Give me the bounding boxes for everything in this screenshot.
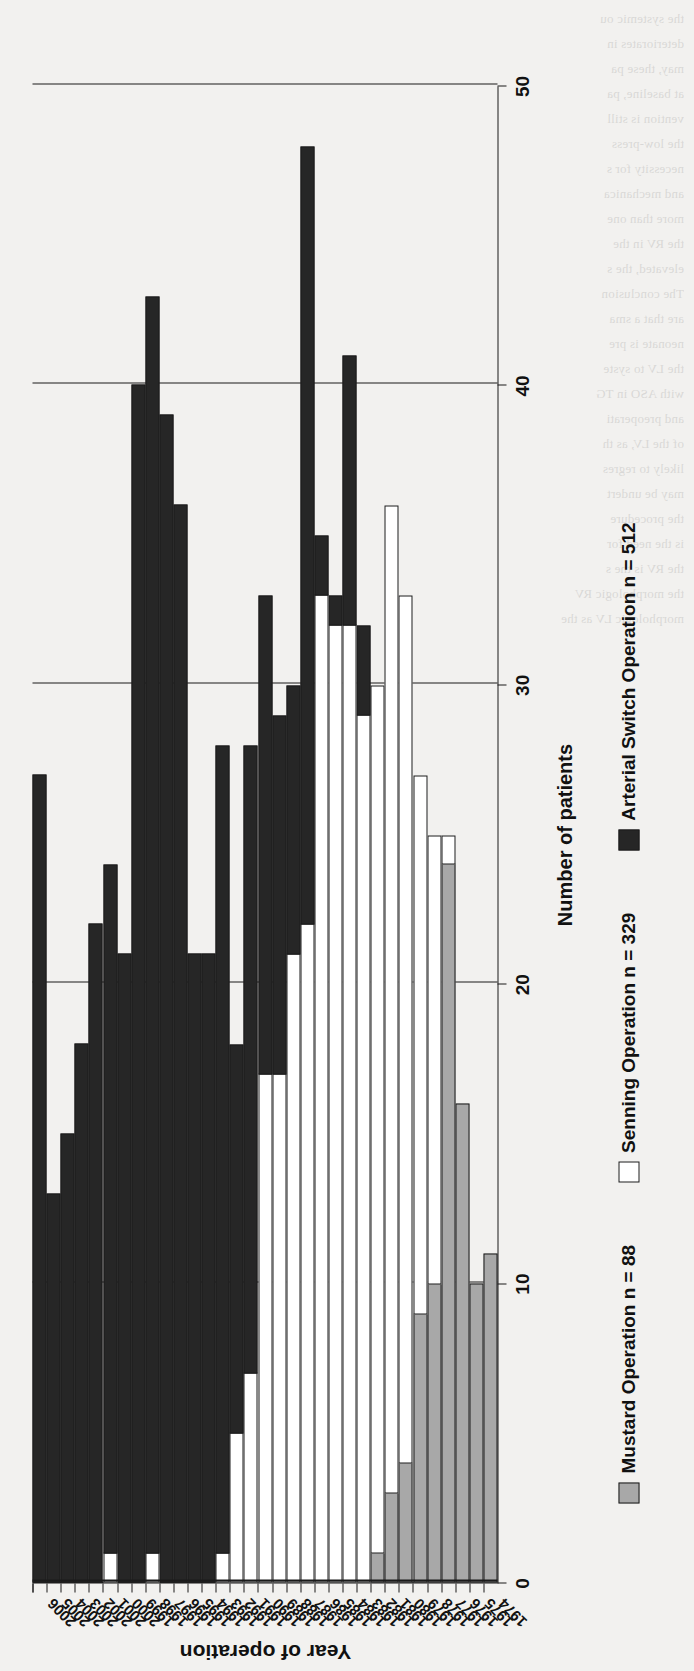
category-tick-1998 xyxy=(145,1583,146,1592)
bar-segment-senning-1979 xyxy=(413,775,427,1314)
bar-1995 xyxy=(187,953,201,1581)
category-tick-1990 xyxy=(257,1583,258,1592)
category-tick-1992 xyxy=(229,1583,230,1592)
value-tick-label-30: 30 xyxy=(511,665,533,705)
category-tick-2001 xyxy=(102,1583,103,1592)
bar-segment-senning-1990 xyxy=(258,1073,272,1582)
bar-1990 xyxy=(258,595,272,1581)
bar-1980 xyxy=(398,595,412,1581)
bar-segment-senning-1982 xyxy=(370,685,384,1553)
bar-1999 xyxy=(131,384,145,1581)
bar-2000 xyxy=(117,953,131,1581)
category-tick-1975 xyxy=(469,1583,470,1592)
bar-segment-senning-1988 xyxy=(286,953,300,1582)
category-tick-2004 xyxy=(60,1583,61,1592)
legend-item-aso: Arterial Switch Operation n = 512 xyxy=(617,522,639,850)
bar-segment-senning-1992 xyxy=(229,1432,243,1582)
legend-swatch-mustard xyxy=(618,1482,639,1503)
bar-segment-aso-1994 xyxy=(201,953,215,1582)
bar-segment-aso-1992 xyxy=(229,1044,243,1433)
legend-label-mustard: Mustard Operation n = 88 xyxy=(617,1244,639,1473)
legend-swatch-senning xyxy=(618,1161,639,1182)
category-tick-1986 xyxy=(314,1583,315,1592)
chart-figure: 01020304050 1974197519761977197819791980… xyxy=(0,0,694,1671)
bar-2004 xyxy=(60,1133,74,1581)
bar-segment-mustard-1976 xyxy=(455,1103,469,1582)
category-tick-1989 xyxy=(272,1583,273,1592)
bar-segment-mustard-1981 xyxy=(384,1492,398,1582)
value-tick-label-50: 50 xyxy=(511,66,533,106)
bar-1975 xyxy=(469,1283,483,1581)
legend-item-senning: Senning Operation n = 329 xyxy=(617,912,639,1182)
bar-segment-senning-1983 xyxy=(356,714,370,1582)
bar-segment-aso-2004 xyxy=(60,1133,74,1582)
value-tick-10 xyxy=(497,1283,506,1284)
bar-1998 xyxy=(145,296,159,1581)
y-axis-title: Number of patients xyxy=(553,743,576,925)
category-tick-1974 xyxy=(483,1583,484,1592)
bar-1992 xyxy=(229,1044,243,1581)
gridline xyxy=(32,83,497,84)
bar-1991 xyxy=(243,745,257,1581)
legend-item-mustard: Mustard Operation n = 88 xyxy=(617,1244,639,1503)
bar-segment-senning-1980 xyxy=(398,595,412,1463)
bar-1976 xyxy=(455,1103,469,1581)
category-tick-1991 xyxy=(243,1583,244,1592)
bar-1979 xyxy=(413,775,427,1581)
category-tick-1993 xyxy=(215,1583,216,1592)
bar-segment-aso-2001 xyxy=(103,864,117,1553)
bar-1974 xyxy=(483,1253,497,1581)
bar-2006 xyxy=(32,774,46,1581)
bar-segment-aso-1984 xyxy=(342,355,356,624)
bar-1987 xyxy=(300,146,314,1581)
bar-segment-aso-2005 xyxy=(46,1193,60,1582)
value-tick-label-0: 0 xyxy=(511,1563,533,1603)
category-tick-1987 xyxy=(300,1583,301,1592)
bar-2003 xyxy=(74,1043,88,1581)
bar-segment-senning-1981 xyxy=(384,505,398,1493)
value-tick-20 xyxy=(497,983,506,984)
value-tick-label-10: 10 xyxy=(511,1264,533,1304)
category-tick-1976 xyxy=(455,1583,456,1592)
value-tick-label-20: 20 xyxy=(511,964,533,1004)
category-tick-end xyxy=(32,1583,33,1592)
category-tick-1977 xyxy=(441,1583,442,1592)
bar-2002 xyxy=(88,923,102,1581)
category-tick-1988 xyxy=(286,1583,287,1592)
category-tick-2005 xyxy=(46,1583,47,1592)
bar-segment-aso-1990 xyxy=(258,595,272,1074)
bar-segment-mustard-1978 xyxy=(427,1283,441,1582)
bar-segment-aso-1988 xyxy=(286,685,300,954)
legend-swatch-aso xyxy=(618,829,639,850)
bar-segment-aso-1995 xyxy=(187,953,201,1582)
category-tick-1981 xyxy=(384,1583,385,1592)
bar-segment-senning-1986 xyxy=(314,594,328,1582)
value-axis-line xyxy=(497,86,498,1583)
bar-segment-mustard-1982 xyxy=(370,1552,384,1582)
category-axis: 1974197519761977197819791980198119821983… xyxy=(32,1582,497,1583)
bar-1986 xyxy=(314,535,328,1581)
bar-1989 xyxy=(272,715,286,1581)
gridline xyxy=(32,382,497,383)
chart-legend: Mustard Operation n = 88Senning Operatio… xyxy=(617,460,639,1503)
bar-segment-senning-2001 xyxy=(103,1552,117,1582)
bar-segment-aso-1983 xyxy=(356,625,370,715)
bar-segment-aso-1989 xyxy=(272,715,286,1074)
value-tick-0 xyxy=(497,1582,506,1583)
bar-segment-aso-1996 xyxy=(173,504,187,1582)
bar-segment-aso-2003 xyxy=(74,1043,88,1582)
rotated-figure-container: 01020304050 1974197519761977197819791980… xyxy=(0,0,694,1671)
bar-1993 xyxy=(215,745,229,1581)
bar-1977 xyxy=(441,835,455,1581)
bar-segment-mustard-1974 xyxy=(483,1253,497,1582)
legend-label-aso: Arterial Switch Operation n = 512 xyxy=(617,522,639,820)
bar-2005 xyxy=(46,1193,60,1581)
plot-area xyxy=(32,86,497,1583)
category-tick-1979 xyxy=(412,1583,413,1592)
bar-1984 xyxy=(342,355,356,1581)
bar-1978 xyxy=(427,835,441,1581)
bar-segment-senning-1993 xyxy=(215,1552,229,1582)
bar-1988 xyxy=(286,685,300,1581)
category-tick-2002 xyxy=(88,1583,89,1592)
category-tick-1978 xyxy=(427,1583,428,1592)
